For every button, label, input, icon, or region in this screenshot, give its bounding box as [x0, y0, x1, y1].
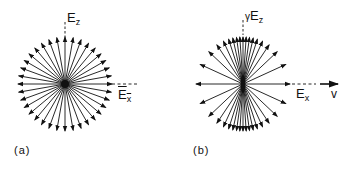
panel-b-caption: (b)	[193, 145, 209, 156]
panel-b-ex-label: Ex	[296, 87, 309, 100]
ez-main: E	[250, 8, 259, 23]
ex-main: E	[118, 87, 127, 102]
ex-sub: x	[127, 94, 132, 104]
dense-core	[241, 75, 245, 93]
panel-a-isotropic-field	[18, 37, 112, 131]
ex-sub: x	[305, 93, 310, 103]
velocity-label: v	[331, 88, 337, 100]
panel-b-gamma-ez-label: γEz	[245, 9, 263, 22]
panel-a-caption: (a)	[14, 145, 30, 156]
panel-a-ez-label: Ez	[67, 11, 80, 24]
panel-a-ex-label: Ex	[118, 88, 131, 101]
charge-center	[61, 80, 69, 88]
ez-sub: z	[76, 17, 81, 27]
ex-main: E	[296, 86, 305, 101]
panel-b-compressed-field	[196, 37, 290, 131]
ez-main: E	[67, 10, 76, 25]
ez-sub: z	[259, 15, 264, 25]
